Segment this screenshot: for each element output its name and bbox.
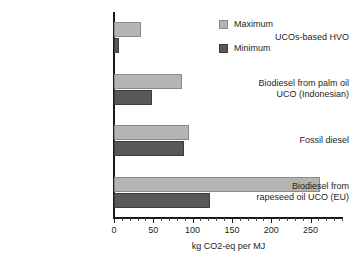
x-tick-minor <box>287 218 288 221</box>
x-tick-major <box>153 218 154 223</box>
legend-item-maximum: Maximum <box>219 19 273 29</box>
x-tick-major <box>232 218 233 223</box>
x-tick-minor <box>256 218 257 221</box>
x-tick-minor <box>334 218 335 221</box>
maximum-swatch-icon <box>219 20 228 29</box>
x-tick-minor <box>200 218 201 221</box>
category-label: Biodiesel fromrapeseed oil UCO (EU) <box>241 181 353 203</box>
x-tick-minor <box>224 218 225 221</box>
x-tick-minor <box>279 218 280 221</box>
minimum-swatch-icon <box>219 44 228 53</box>
x-tick-major <box>271 218 272 223</box>
x-tick-label: 250 <box>303 225 318 235</box>
x-tick-minor <box>161 218 162 221</box>
category-label-line: UCO (Indonesian) <box>241 89 349 100</box>
legend-label-maximum: Maximum <box>234 19 273 29</box>
x-tick-major <box>311 218 312 223</box>
x-tick-label: 0 <box>111 225 116 235</box>
x-tick-minor <box>303 218 304 221</box>
x-tick-minor <box>263 218 264 221</box>
x-tick-minor <box>318 218 319 221</box>
x-tick-minor <box>248 218 249 221</box>
category-label-line: Fossil diesel <box>241 135 349 146</box>
legend-item-minimum: Minimum <box>219 43 273 53</box>
bar-minimum <box>114 193 210 208</box>
category-label: Fossil diesel <box>241 135 353 146</box>
x-tick-label: 150 <box>224 225 239 235</box>
x-tick-minor <box>169 218 170 221</box>
category-label-line: Biodiesel from palm oil <box>241 78 349 89</box>
x-tick-minor <box>295 218 296 221</box>
bar-maximum <box>114 74 182 89</box>
bar-chart: UCOs-based HVOBiodiesel from palm oilUCO… <box>0 0 353 265</box>
bar-minimum <box>114 141 184 156</box>
legend: Maximum Minimum <box>219 19 273 67</box>
x-tick-minor <box>216 218 217 221</box>
x-tick-minor <box>208 218 209 221</box>
bar-minimum <box>114 90 152 105</box>
x-tick-label: 200 <box>264 225 279 235</box>
x-tick-minor <box>240 218 241 221</box>
x-tick-minor <box>326 218 327 221</box>
category-label: Biodiesel from palm oilUCO (Indonesian) <box>241 78 353 100</box>
legend-label-minimum: Minimum <box>234 43 271 53</box>
x-tick-minor <box>185 218 186 221</box>
x-tick-minor <box>138 218 139 221</box>
bar-minimum <box>114 38 119 53</box>
x-tick-major <box>114 218 115 223</box>
x-tick-minor <box>177 218 178 221</box>
category-label-line: rapeseed oil UCO (EU) <box>241 192 349 203</box>
bar-maximum <box>114 125 189 140</box>
bar-maximum <box>114 22 141 37</box>
x-tick-major <box>193 218 194 223</box>
x-tick-label: 50 <box>148 225 158 235</box>
category-label-line: Biodiesel from <box>241 181 349 192</box>
x-axis-title: kg CO2-eq per MJ <box>114 241 343 251</box>
x-tick-minor <box>122 218 123 221</box>
x-tick-minor <box>145 218 146 221</box>
x-tick-label: 100 <box>185 225 200 235</box>
x-tick-minor <box>130 218 131 221</box>
x-tick-minor <box>342 218 343 221</box>
